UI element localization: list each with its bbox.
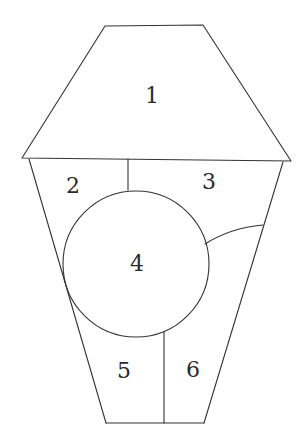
- right-arc: [205, 225, 263, 244]
- region-label-1: 1: [145, 85, 159, 107]
- region-label-5: 5: [117, 360, 131, 382]
- region-label-2: 2: [66, 175, 80, 197]
- region-label-6: 6: [186, 359, 200, 381]
- left-wall: [29, 159, 106, 423]
- region-label-4: 4: [130, 253, 144, 275]
- region-label-3: 3: [202, 171, 216, 193]
- diagram-canvas: [0, 0, 303, 441]
- right-wall: [204, 162, 283, 423]
